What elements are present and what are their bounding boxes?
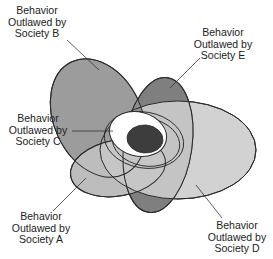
leader-line-e — [170, 58, 200, 88]
venn-diagram: Behavior Outlawed by Society B Behavior … — [0, 0, 273, 259]
label-line: Behavior — [8, 5, 66, 17]
label-society-e: Behavior Outlawed by Society E — [193, 27, 253, 62]
label-society-c: Behavior Outlawed by Society C — [7, 113, 69, 148]
label-line: Behavior — [10, 211, 72, 223]
label-line: Society D — [206, 243, 268, 255]
label-line: Behavior — [7, 113, 69, 125]
label-line: Society A — [10, 234, 72, 246]
label-line: Behavior — [193, 27, 253, 39]
label-society-b: Behavior Outlawed by Society B — [8, 5, 66, 40]
label-line: Behavior — [206, 220, 268, 232]
label-society-a: Behavior Outlawed by Society A — [10, 211, 72, 246]
label-line: Society C — [7, 136, 69, 148]
label-line: Society E — [193, 50, 253, 62]
label-line: Society B — [8, 28, 66, 40]
label-society-d: Behavior Outlawed by Society D — [206, 220, 268, 255]
leader-line-a — [53, 178, 86, 211]
